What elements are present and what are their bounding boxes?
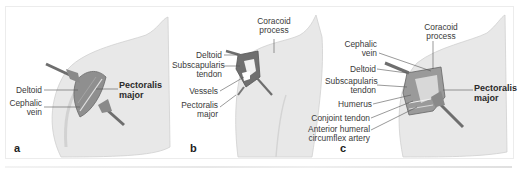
label-vessels: Vessels [176, 87, 218, 96]
label-pectoralis-major-line2: major [176, 110, 218, 119]
label-pectoralis-major-line1: Pectoralis [474, 83, 517, 93]
label-pectoralis-major-line1: Pectoralis [119, 80, 162, 90]
label-deltoid: Deltoid [176, 51, 222, 60]
label-pectoralis-major: Pectoralis major [176, 101, 218, 119]
label-coracoid-process: Coracoid process [254, 17, 294, 35]
label-subscapularis-tendon: Subscapularis tendon [325, 77, 376, 95]
panel-label-c: c [340, 142, 346, 154]
label-pectoralis-major-line2: major [119, 90, 162, 100]
label-cephalic-vein-line2: vein [341, 49, 377, 58]
label-anterior-humeral-line2: circumflex artery [291, 134, 370, 143]
label-coracoid-process-line2: process [421, 32, 461, 41]
label-cephalic-vein: Cephalic vein [8, 99, 42, 117]
label-deltoid: Deltoid [8, 86, 42, 95]
panel-a: Deltoid Cephalic vein Pectoralis major a [6, 7, 176, 158]
panel-label-b: b [190, 142, 197, 154]
label-subscapularis-tendon-line2: tendon [172, 70, 222, 79]
label-pectoralis-major-line2: major [474, 93, 517, 103]
caption-text-cutoff [5, 162, 512, 171]
label-coracoid-process: Coracoid process [421, 23, 461, 41]
label-pectoralis-major: Pectoralis major [119, 80, 162, 100]
label-cephalic-vein: Cephalic vein [341, 40, 377, 58]
label-cephalic-vein-line2: vein [8, 108, 42, 117]
label-anterior-humeral-circumflex-artery: Anterior humeral circumflex artery [291, 125, 370, 143]
label-subscapularis-tendon-line2: tendon [325, 86, 376, 95]
figure-frame: Deltoid Cephalic vein Pectoralis major a [5, 6, 514, 159]
panel-c: Coracoid process Cephalic vein Deltoid S… [341, 7, 513, 158]
label-deltoid: Deltoid [341, 65, 376, 74]
label-conjoint-tendon: Conjoint tendon [301, 114, 370, 123]
label-humerus: Humerus [333, 100, 372, 109]
panel-label-a: a [14, 142, 20, 154]
label-subscapularis-tendon: Subscapularis tendon [172, 61, 222, 79]
label-coracoid-process-line2: process [254, 26, 294, 35]
label-pectoralis-major: Pectoralis major [474, 83, 517, 103]
